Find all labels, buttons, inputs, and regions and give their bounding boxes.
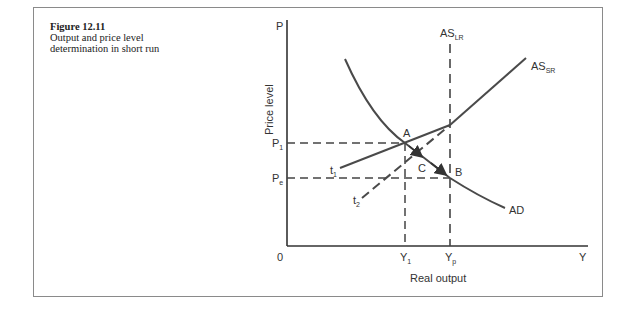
point-c-label: C [418, 162, 426, 174]
t2-label: t2 [353, 194, 360, 208]
ad-as-diagram: P Y 0 Price level Real output P1 Pe Y1 Y… [0, 0, 633, 315]
x-axis-title: Real output [410, 272, 466, 284]
pe-label: Pe [272, 172, 283, 186]
point-b-label: B [455, 166, 462, 178]
y-axis-title: Price level [263, 84, 275, 135]
ad-label: AD [509, 204, 524, 216]
x-axis-label: Y [579, 251, 587, 263]
as-sr-label: ASSR [531, 60, 555, 74]
as-sr-curve [450, 58, 526, 125]
t1-label: t1 [330, 164, 337, 178]
y1-label: Y1 [400, 251, 411, 265]
t1-curve [340, 125, 450, 168]
arrow-c-to-b [431, 163, 445, 174]
y-axis-label: P [276, 20, 283, 32]
origin-label: 0 [277, 251, 283, 263]
as-lr-label: ASLR [440, 27, 464, 41]
point-a-label: A [403, 127, 411, 139]
p1-label: P1 [272, 137, 283, 151]
ad-curve [345, 59, 505, 208]
yp-label: Yp [445, 251, 456, 266]
